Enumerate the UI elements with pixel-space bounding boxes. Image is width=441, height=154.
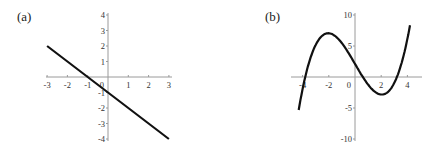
x-tick-label: -3 [44,80,51,90]
x-tick-label: -1 [84,80,91,90]
y-tick-label: -10 [341,134,352,144]
y-tick-label: -4 [98,134,106,144]
y-tick-label: 4 [101,10,106,20]
y-tick-label: 2 [101,41,105,51]
x-tick-label: 3 [167,80,171,90]
y-tick-label: -5 [345,103,352,113]
x-tick-label: 2 [379,80,383,90]
x-tick-label: -2 [325,80,332,90]
panel-a-label: (a) [17,9,31,24]
y-tick-label: 1 [101,57,105,67]
x-tick-label: 2 [146,80,150,90]
y-tick-label: -3 [98,119,105,129]
x-tick-label: 0 [347,80,351,90]
panel-b-label: (b) [265,9,280,24]
y-tick-label: 3 [101,26,105,36]
x-tick-label: 4 [405,80,410,90]
x-tick-label: -2 [64,80,71,90]
y-tick-label: 5 [348,41,352,51]
y-tick-label: 10 [344,10,353,20]
panel-b-curve [299,25,410,110]
panel-a-line-graph: (a) -3-2-101234321-1-2-3-4 [17,9,172,144]
y-tick-label: -2 [98,103,105,113]
figure: (a) -3-2-101234321-1-2-3-4 (b) -4-202410… [0,0,441,154]
x-tick-label: 1 [126,80,130,90]
panel-b-cubic-graph: (b) -4-2024105-5-10 [265,9,422,144]
